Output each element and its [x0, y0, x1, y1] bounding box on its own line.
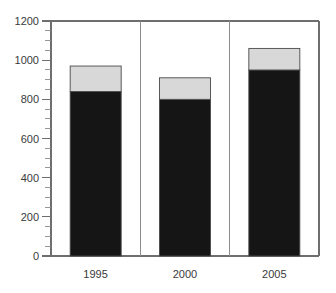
- bar-segment-2005-lower-segment: [249, 70, 300, 256]
- x-tick-label-2000: 2000: [173, 268, 197, 280]
- y-tick-label-0: 0: [33, 250, 39, 262]
- x-tick-label-2005: 2005: [262, 268, 286, 280]
- y-tick-label-600: 600: [21, 133, 39, 145]
- bar-group-1995: [70, 66, 121, 256]
- y-tick-label-800: 800: [21, 93, 39, 105]
- y-axis-tick-labels: 1200 1000 800 600 400 200 0: [15, 15, 39, 262]
- bars-layer: [70, 48, 300, 256]
- bar-segment-1995-upper-segment: [70, 66, 121, 91]
- bar-segment-1995-lower-segment: [70, 92, 121, 257]
- chart-canvas: 1200 1000 800 600 400 200 0 1995 2000 20…: [0, 0, 336, 293]
- bar-segment-2000-lower-segment: [160, 99, 211, 256]
- x-tick-label-1995: 1995: [83, 268, 107, 280]
- bar-segment-2005-upper-segment: [249, 48, 300, 70]
- y-tick-label-200: 200: [21, 211, 39, 223]
- x-axis-tick-labels: 1995 2000 2005: [83, 268, 286, 280]
- bar-chart-figure: 1200 1000 800 600 400 200 0 1995 2000 20…: [0, 0, 336, 293]
- bar-group-2005: [249, 48, 300, 256]
- bar-segment-2000-upper-segment: [160, 78, 211, 100]
- y-tick-label-1200: 1200: [15, 15, 39, 27]
- y-tick-label-400: 400: [21, 172, 39, 184]
- y-tick-label-1000: 1000: [15, 54, 39, 66]
- bar-group-2000: [160, 78, 211, 256]
- y-axis-major-ticks: [42, 21, 51, 256]
